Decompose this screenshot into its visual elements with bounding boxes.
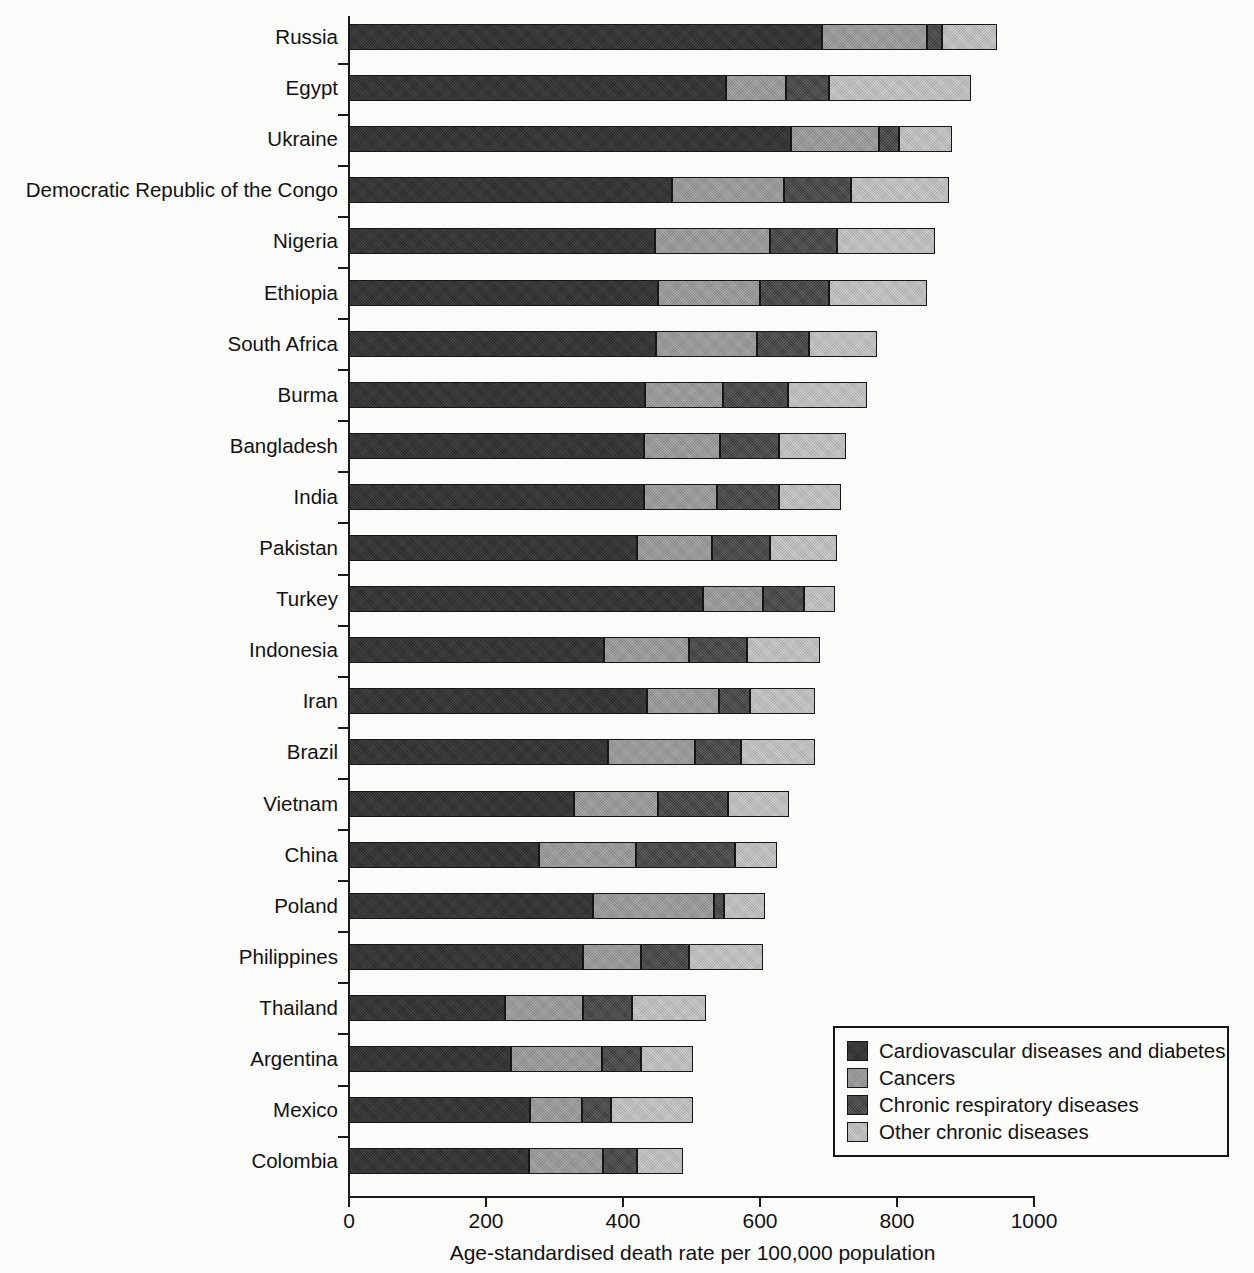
y-axis-tick bbox=[338, 829, 348, 831]
y-axis-tick bbox=[338, 267, 348, 269]
y-axis-tick bbox=[338, 727, 348, 729]
x-axis-tick bbox=[485, 1198, 487, 1207]
category-label: Ethiopia bbox=[264, 281, 338, 305]
category-label: Indonesia bbox=[249, 638, 338, 662]
bar-segment bbox=[637, 535, 712, 561]
bar-segment bbox=[511, 1046, 602, 1072]
bar-segment bbox=[604, 637, 690, 663]
y-axis-tick bbox=[338, 471, 348, 473]
category-label: Thailand bbox=[259, 996, 338, 1020]
bar-segment bbox=[349, 126, 791, 152]
bar-segment bbox=[644, 433, 720, 459]
bar-segment bbox=[779, 433, 846, 459]
bar-segment bbox=[349, 382, 645, 408]
x-axis-tick bbox=[759, 1198, 761, 1207]
bar-row bbox=[349, 177, 949, 203]
bar-segment bbox=[611, 1097, 693, 1123]
bar-segment bbox=[636, 842, 735, 868]
bar-row bbox=[349, 791, 789, 817]
category-label: Turkey bbox=[276, 587, 338, 611]
category-label: Egypt bbox=[286, 76, 338, 100]
y-axis-tick bbox=[338, 574, 348, 576]
bar-segment bbox=[349, 739, 608, 765]
bar-segment bbox=[728, 791, 789, 817]
category-label: Pakistan bbox=[259, 536, 338, 560]
bar-row bbox=[349, 484, 841, 510]
bar-segment bbox=[593, 893, 714, 919]
bar-segment bbox=[632, 995, 706, 1021]
y-axis-tick bbox=[338, 1136, 348, 1138]
x-axis-tick-label: 200 bbox=[468, 1209, 503, 1233]
bar-segment bbox=[349, 995, 505, 1021]
y-axis-tick bbox=[338, 676, 348, 678]
legend-label: Cardiovascular diseases and diabetes bbox=[879, 1039, 1225, 1063]
bar-segment bbox=[712, 535, 770, 561]
category-label: Bangladesh bbox=[230, 434, 338, 458]
bar-row bbox=[349, 995, 706, 1021]
bar-segment bbox=[757, 331, 809, 357]
legend-label: Chronic respiratory diseases bbox=[879, 1093, 1139, 1117]
bar-segment bbox=[720, 433, 779, 459]
x-axis-tick bbox=[1033, 1198, 1035, 1207]
bar-segment bbox=[349, 24, 822, 50]
bar-segment bbox=[837, 228, 934, 254]
bar-segment bbox=[349, 331, 656, 357]
bar-segment bbox=[741, 739, 816, 765]
bar-segment bbox=[822, 24, 927, 50]
legend-item: Cancers bbox=[847, 1064, 1215, 1091]
bar-row bbox=[349, 228, 935, 254]
bar-row bbox=[349, 382, 867, 408]
bar-segment bbox=[804, 586, 836, 612]
chart-page: RussiaEgyptUkraineDemocratic Republic of… bbox=[0, 0, 1254, 1273]
x-axis-tick-label: 0 bbox=[343, 1209, 355, 1233]
bar-segment bbox=[747, 637, 820, 663]
bar-segment bbox=[672, 177, 784, 203]
bar-segment bbox=[349, 893, 593, 919]
bar-row bbox=[349, 24, 997, 50]
bar-row bbox=[349, 893, 765, 919]
bar-segment bbox=[719, 688, 751, 714]
category-label: Colombia bbox=[251, 1149, 338, 1173]
y-axis-tick bbox=[338, 982, 348, 984]
bar-segment bbox=[829, 75, 971, 101]
bar-segment bbox=[695, 739, 741, 765]
bar-segment bbox=[602, 1046, 641, 1072]
bar-segment bbox=[641, 944, 690, 970]
bar-row bbox=[349, 688, 815, 714]
category-label: Nigeria bbox=[273, 229, 338, 253]
bar-segment bbox=[349, 1046, 511, 1072]
bar-row bbox=[349, 637, 820, 663]
bar-segment bbox=[349, 944, 583, 970]
bar-segment bbox=[829, 280, 928, 306]
bar-segment bbox=[644, 484, 717, 510]
bar-segment bbox=[505, 995, 583, 1021]
bar-segment bbox=[641, 1046, 693, 1072]
bar-segment bbox=[583, 995, 632, 1021]
y-axis-tick bbox=[338, 114, 348, 116]
legend-item: Cardiovascular diseases and diabetes bbox=[847, 1037, 1215, 1064]
y-axis-tick bbox=[338, 931, 348, 933]
bar-segment bbox=[723, 382, 788, 408]
bar-segment bbox=[750, 688, 814, 714]
x-axis-tick-label: 400 bbox=[605, 1209, 640, 1233]
bar-row bbox=[349, 433, 846, 459]
bar-segment bbox=[582, 1097, 611, 1123]
bar-segment bbox=[689, 944, 762, 970]
bar-row bbox=[349, 126, 952, 152]
bar-row bbox=[349, 535, 837, 561]
y-axis-tick bbox=[338, 778, 348, 780]
x-axis-tick-label: 1000 bbox=[1011, 1209, 1058, 1233]
y-axis-tick bbox=[338, 522, 348, 524]
bar-segment bbox=[717, 484, 779, 510]
bar-segment bbox=[942, 24, 997, 50]
bar-row bbox=[349, 1046, 693, 1072]
bar-segment bbox=[349, 484, 644, 510]
bar-segment bbox=[779, 484, 841, 510]
y-axis-tick bbox=[338, 880, 348, 882]
y-axis-tick bbox=[338, 420, 348, 422]
bar-segment bbox=[349, 535, 637, 561]
y-axis-tick bbox=[338, 216, 348, 218]
category-label: Vietnam bbox=[263, 792, 338, 816]
bar-row bbox=[349, 739, 815, 765]
bar-segment bbox=[655, 228, 770, 254]
